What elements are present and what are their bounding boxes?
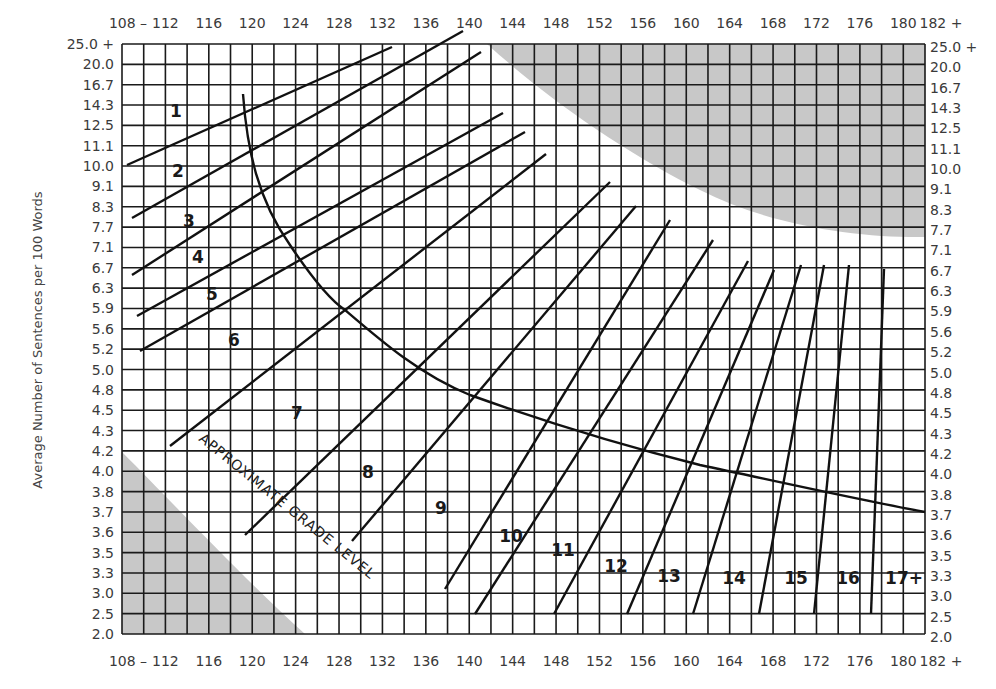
grade-label: 1 (170, 101, 182, 121)
y-tick-label: 16.7 (930, 80, 961, 96)
x-tick-label: 112 (152, 15, 179, 31)
y-tick-label: 11.1 (930, 141, 961, 157)
y-tick-label: 8.3 (930, 202, 952, 218)
y-tick-label: 5.6 (930, 324, 952, 340)
y-tick-label: 3.8 (92, 484, 114, 500)
y-tick-label: 2.0 (930, 629, 952, 645)
grade-label: 9 (435, 498, 447, 518)
y-tick-label: 3.3 (930, 568, 952, 584)
grade-boundary-line (693, 265, 801, 614)
grade-boundary-line (814, 265, 849, 614)
grade-label: 15 (784, 568, 808, 588)
grade-label: 10 (499, 526, 523, 546)
x-tick-label: 156 (629, 653, 656, 669)
x-tick-label: 108 – (109, 15, 147, 31)
y-tick-label: 10.0 (930, 161, 961, 177)
grade-label: 8 (362, 462, 374, 482)
grade-label: 5 (206, 284, 218, 304)
y-tick-label: 3.0 (92, 585, 114, 601)
y-tick-label: 5.9 (92, 300, 114, 316)
grade-boundary-line (554, 261, 748, 614)
y-tick-label: 4.0 (92, 463, 114, 479)
y-tick-label: 14.3 (930, 100, 961, 116)
grade-label: 7 (291, 403, 303, 423)
y-tick-label: 14.3 (83, 97, 114, 113)
x-axis-bottom-ticks: 108 –11211612012412813213614014414815215… (109, 653, 963, 669)
x-tick-label: 172 (803, 15, 830, 31)
x-tick-label: 168 (760, 653, 787, 669)
y-tick-label: 3.5 (92, 545, 114, 561)
x-tick-label: 136 (412, 15, 439, 31)
grade-boundary-line (759, 265, 824, 614)
x-tick-label: 164 (716, 653, 743, 669)
y-axis-left-ticks: 25.0 +20.016.714.312.511.110.09.18.37.77… (67, 36, 114, 642)
grade-boundary-line (140, 132, 525, 351)
x-tick-label: 182 + (920, 653, 963, 669)
x-tick-label: 116 (195, 653, 222, 669)
x-tick-label: 108 – (109, 653, 147, 669)
y-tick-label: 4.2 (930, 446, 952, 462)
x-tick-label: 160 (673, 15, 700, 31)
y-tick-label: 7.7 (92, 219, 114, 235)
x-tick-label: 152 (586, 653, 613, 669)
y-tick-label: 3.3 (92, 565, 114, 581)
y-tick-label: 9.1 (930, 181, 952, 197)
y-tick-label: 12.5 (930, 120, 961, 136)
grade-boundary-line (132, 31, 463, 218)
y-tick-label: 4.3 (92, 423, 114, 439)
y-tick-label: 16.7 (83, 77, 114, 93)
y-tick-label: 7.7 (930, 222, 952, 238)
y-tick-label: 11.1 (83, 138, 114, 154)
x-tick-label: 132 (369, 15, 396, 31)
x-axis-top-ticks: 108 –11211612012412813213614014414815215… (109, 15, 963, 31)
y-tick-label: 5.0 (930, 365, 952, 381)
grade-boundary-line (245, 182, 610, 535)
x-tick-label: 148 (543, 15, 570, 31)
grade-label: 2 (172, 161, 184, 181)
grade-label: 16 (836, 568, 860, 588)
x-tick-label: 120 (239, 15, 266, 31)
x-tick-label: 172 (803, 653, 830, 669)
x-tick-label: 124 (282, 653, 309, 669)
x-tick-label: 180 (890, 653, 917, 669)
y-tick-label: 3.7 (930, 507, 952, 523)
x-tick-label: 124 (282, 15, 309, 31)
y-tick-label: 2.5 (930, 609, 952, 625)
y-tick-label: 10.0 (83, 158, 114, 174)
grade-label: 14 (722, 568, 746, 588)
x-tick-label: 116 (195, 15, 222, 31)
y-tick-label: 3.6 (930, 527, 952, 543)
y-tick-label: 3.8 (930, 487, 952, 503)
y-tick-label: 5.9 (930, 303, 952, 319)
y-tick-label: 5.2 (92, 341, 114, 357)
y-tick-label: 2.5 (92, 606, 114, 622)
x-tick-label: 152 (586, 15, 613, 31)
x-tick-label: 140 (456, 653, 483, 669)
x-tick-label: 140 (456, 15, 483, 31)
grade-label: 13 (657, 566, 681, 586)
x-tick-label: 176 (847, 15, 874, 31)
y-tick-label: 20.0 (930, 59, 961, 75)
y-tick-label: 8.3 (92, 199, 114, 215)
grade-boundary-line (475, 240, 713, 614)
y-tick-label: 7.1 (930, 242, 952, 258)
y-axis-right-ticks: 25.0 +20.016.714.312.511.110.09.18.37.77… (930, 39, 977, 645)
x-tick-label: 164 (716, 15, 743, 31)
grade-label: 4 (192, 247, 204, 267)
x-tick-label: 128 (326, 653, 353, 669)
grade-label: 11 (551, 540, 575, 560)
grade-label: 17+ (885, 568, 923, 588)
y-tick-label: 4.0 (930, 466, 952, 482)
y-tick-label: 4.5 (930, 405, 952, 421)
y-tick-label: 7.1 (92, 239, 114, 255)
y-tick-label: 4.5 (92, 402, 114, 418)
y-tick-label: 6.7 (930, 263, 952, 279)
x-tick-label: 112 (152, 653, 179, 669)
y-tick-label: 25.0 + (930, 39, 977, 55)
y-tick-label: 9.1 (92, 178, 114, 194)
y-tick-label: 3.5 (930, 548, 952, 564)
grade-label: 12 (604, 556, 628, 576)
y-tick-label: 3.0 (930, 588, 952, 604)
grade-boundary-line (352, 206, 636, 541)
y-tick-label: 3.6 (92, 524, 114, 540)
